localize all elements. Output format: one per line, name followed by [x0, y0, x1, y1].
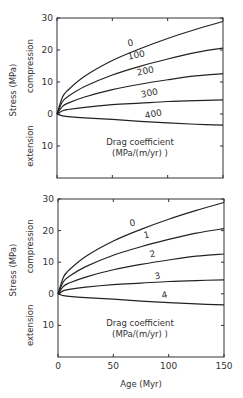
curve-label-0: 0 [127, 38, 135, 49]
y-region-extension: extension [25, 305, 35, 346]
curve-label-100: 100 [127, 48, 146, 61]
y-tick-label: 30 [42, 13, 54, 23]
curve-300 [57, 100, 223, 114]
y-axis-title: Stress (MPa) [8, 244, 18, 297]
y-tick-label: 20 [42, 45, 54, 55]
y-tick-label: 0 [48, 289, 54, 299]
y-tick-label: 10 [42, 141, 54, 151]
y-tick-label: 20 [43, 226, 55, 236]
x-axis-title: Age (Myr) [120, 379, 162, 389]
drag-coefficient-note: Drag coefficient [106, 137, 174, 147]
y-region-extension: extension [25, 125, 35, 166]
drag-coefficient-note: Drag coefficient [106, 318, 174, 328]
curve-3 [58, 280, 224, 294]
y-tick-label: 30 [43, 194, 55, 204]
drag-coefficient-units: (MPa/(m/yr) ) [112, 329, 168, 339]
chart-panel-top: 302010010Stress (MPa)compressionextensio… [8, 13, 223, 178]
curve-label-400: 400 [144, 107, 163, 120]
curve-label-0: 0 [129, 218, 137, 229]
y-axis-title: Stress (MPa) [8, 64, 18, 117]
curve-4 [58, 294, 224, 305]
curve-label-4: 4 [161, 290, 169, 301]
y-region-compression: compression [25, 39, 35, 93]
chart-panel-bottom: 302010010050100150Stress (MPa)compressio… [8, 194, 233, 389]
curve-1 [58, 229, 224, 294]
curve-label-300: 300 [140, 86, 159, 99]
curve-400 [57, 114, 223, 125]
y-tick-label: 0 [47, 109, 53, 119]
y-region-compression: compression [25, 219, 35, 273]
x-tick-label: 100 [160, 361, 177, 371]
curve-label-2: 2 [149, 249, 157, 260]
chart-figure: 302010010Stress (MPa)compressionextensio… [0, 0, 243, 398]
x-tick-label: 50 [108, 361, 120, 371]
x-tick-label: 0 [55, 361, 61, 371]
curve-label-3: 3 [154, 271, 162, 282]
curve-label-1: 1 [143, 230, 151, 241]
y-tick-label: 10 [43, 257, 55, 267]
y-tick-label: 10 [42, 77, 54, 87]
drag-coefficient-units: (MPa/(m/yr) ) [112, 148, 168, 158]
y-tick-label: 10 [43, 320, 55, 330]
x-tick-label: 150 [215, 361, 232, 371]
